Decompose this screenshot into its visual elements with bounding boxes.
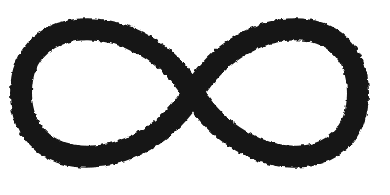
- image-canvas: [0, 0, 390, 195]
- infinity-symbol-graphic: [0, 0, 390, 195]
